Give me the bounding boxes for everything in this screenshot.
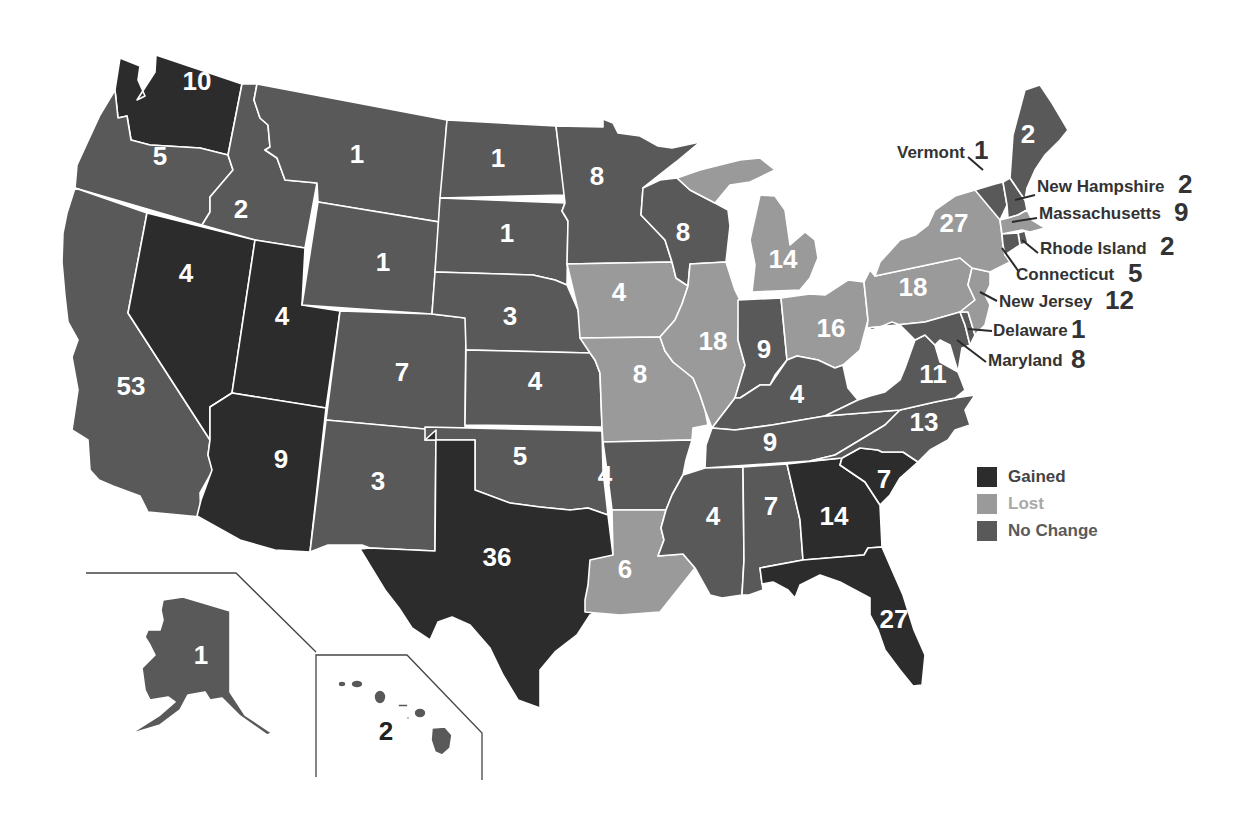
state-wyoming[interactable] [302,202,439,314]
seat-label-alabama: 7 [764,491,778,521]
callout-massachusetts: Massachusetts 9 [1012,197,1188,227]
svg-text:New Hampshire: New Hampshire [1037,177,1165,196]
svg-text:Connecticut: Connecticut [1016,265,1115,284]
callout-new-hampshire: New Hampshire 2 [1015,169,1192,200]
seat-label-indiana: 9 [757,334,771,364]
seat-label-pennsylvania: 18 [899,272,928,302]
svg-text:1: 1 [1071,314,1085,344]
seat-label-illinois: 18 [699,326,728,356]
svg-text:5: 5 [1128,258,1142,288]
callout-vermont: Vermont 1 [897,135,988,170]
seat-label-minnesota: 8 [590,161,604,191]
seat-label-washington: 10 [183,66,212,96]
callout-maryland: Maryland 8 [957,340,1085,374]
swatch-gained [977,467,997,487]
seat-label-california: 53 [117,371,146,401]
legend-item-no-change: No Change [977,519,1098,543]
seat-label-wyoming: 1 [376,247,390,277]
seat-label-west-virginia: 3 [861,343,875,373]
seat-label-florida: 27 [880,604,909,634]
svg-text:Vermont: Vermont [897,143,965,162]
svg-text:Delaware: Delaware [993,321,1068,340]
svg-text:1: 1 [974,135,988,165]
seat-label-nevada: 4 [179,258,194,288]
seat-label-maine: 2 [1021,119,1035,149]
seat-label-michigan: 14 [769,244,798,274]
svg-text:2: 2 [1160,231,1174,261]
hawaii-inset-border [316,655,482,780]
seat-label-new-mexico: 3 [371,466,385,496]
seat-label-virginia: 11 [919,359,947,389]
seat-label-louisiana: 6 [618,554,632,584]
svg-text:New Jersey: New Jersey [999,292,1093,311]
legend-label-gained: Gained [1008,467,1066,487]
callout-new-jersey: New Jersey 12 [980,285,1134,315]
seat-label-alaska: 1 [194,640,208,670]
svg-text:8: 8 [1071,344,1085,374]
seat-label-kansas: 4 [528,366,543,396]
svg-text:12: 12 [1105,285,1134,315]
seat-label-tennessee: 9 [763,427,777,457]
state-arizona[interactable] [197,393,326,552]
svg-text:Rhode Island: Rhode Island [1040,239,1147,258]
legend: Gained Lost No Change [977,465,1098,546]
seat-label-oregon: 5 [153,141,167,171]
seat-label-iowa: 4 [612,277,627,307]
seat-label-wisconsin: 8 [676,217,690,247]
legend-item-gained: Gained [977,465,1098,489]
legend-item-lost: Lost [977,492,1098,516]
seat-label-south-carolina: 7 [877,464,891,494]
seat-label-colorado: 7 [395,357,409,387]
seat-label-mississippi: 4 [706,501,721,531]
swatch-lost [977,494,997,514]
seat-label-north-carolina: 13 [910,407,939,437]
seat-label-missouri: 8 [633,359,647,389]
svg-text:Maryland: Maryland [988,351,1063,370]
svg-text:2: 2 [1178,169,1192,199]
swatch-no-change [977,521,997,541]
seat-label-texas: 36 [483,542,512,572]
seat-label-south-dakota: 1 [500,218,514,248]
seat-label-idaho: 2 [234,194,248,224]
us-house-seats-map: 10 5 53 2 4 4 9 1 1 7 3 1 1 3 4 5 36 8 4… [0,0,1249,833]
state-hawaii[interactable] [338,680,452,755]
legend-label-lost: Lost [1008,494,1044,514]
seat-label-arkansas: 4 [598,460,613,490]
seat-label-new-york: 27 [940,208,969,238]
legend-label-no-change: No Change [1008,521,1098,541]
seat-label-kentucky: 4 [790,379,805,409]
seat-label-north-dakota: 1 [491,143,505,173]
seat-label-montana: 1 [350,139,364,169]
seat-label-georgia: 14 [820,501,849,531]
seat-label-oklahoma: 5 [513,441,527,471]
seat-label-nebraska: 3 [503,301,517,331]
seat-label-ohio: 16 [817,313,846,343]
seat-label-arizona: 9 [274,444,288,474]
seat-label-hawaii: 2 [379,716,393,746]
svg-text:Massachusetts: Massachusetts [1039,204,1161,223]
callout-rhode-island: Rhode Island 2 [1022,231,1174,261]
svg-text:9: 9 [1174,197,1188,227]
seat-label-utah: 4 [275,301,290,331]
